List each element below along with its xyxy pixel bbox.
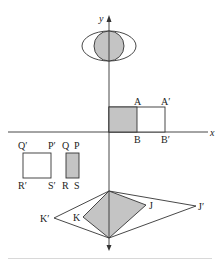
y-axis-up-arrow-icon [107,15,112,22]
rectangle-pqrs-figure: Q′ P′ Q P R′ S′ R S [18,140,80,191]
rectangle-ab-original [109,107,137,132]
label-j: J [149,200,153,211]
kite-jk-figure: J J′ K K′ [40,191,204,238]
label-q-prime: Q′ [18,140,27,151]
label-r-prime: R′ [18,180,27,191]
label-j-prime: J′ [198,201,204,212]
y-axis-label: y [98,13,104,24]
rectangle-pqrs-original [66,153,79,178]
bottom-divider [8,258,212,259]
label-k: K [73,212,81,223]
label-a: A [134,96,142,107]
label-p-prime: P′ [48,140,56,151]
transformation-diagram: x y A A′ B B′ Q′ P′ Q P R′ S′ R S J J′ [0,0,222,266]
label-k-prime: K′ [40,213,49,224]
rectangle-pqrs-image [23,153,51,178]
label-s: S [74,180,80,191]
label-r: R [62,180,69,191]
y-axis-down-arrow-icon [107,245,112,251]
x-axis-label: x [209,127,215,138]
label-s-prime: S′ [48,180,56,191]
label-q: Q [62,140,70,151]
label-a-prime: A′ [161,96,170,107]
label-b-prime: B′ [161,134,170,145]
label-b: B [134,134,141,145]
label-p: P [74,140,80,151]
rectangle-ab-figure: A A′ B B′ [109,96,170,145]
ellipse-circle-figure [82,31,136,61]
